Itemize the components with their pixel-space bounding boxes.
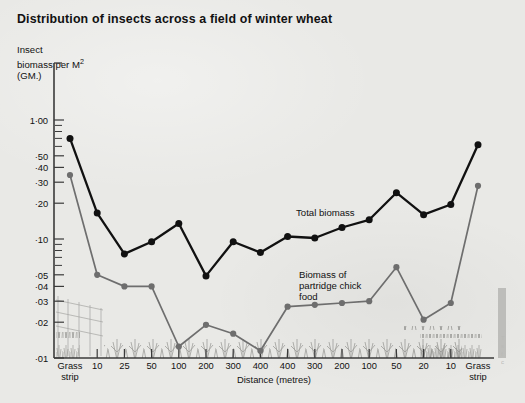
y-axis-minor-ticks	[55, 125, 62, 265]
data-point	[366, 216, 373, 223]
data-point	[230, 238, 237, 245]
chart-canvas	[0, 0, 525, 403]
data-point	[420, 211, 427, 218]
data-point	[67, 135, 74, 142]
y-tick-label: ·40	[14, 162, 48, 173]
x-axis-title: Distance (metres)	[237, 374, 311, 385]
data-point	[475, 183, 481, 189]
data-point	[67, 172, 73, 178]
axis-lines	[54, 63, 494, 358]
data-point	[393, 264, 399, 270]
data-point	[285, 304, 291, 310]
data-point	[447, 201, 454, 208]
y-tick-label: ·04	[14, 281, 48, 292]
data-point	[284, 233, 291, 240]
data-series-layer	[67, 135, 482, 354]
grass-illustration-right	[420, 288, 506, 358]
y-tick-label: ·50	[14, 150, 48, 161]
data-point	[149, 283, 155, 289]
data-point	[257, 249, 264, 256]
data-point	[94, 272, 100, 278]
data-point	[203, 272, 210, 279]
chart-figure: Distribution of insects across a field o…	[0, 0, 525, 403]
data-point	[121, 283, 127, 289]
y-axis-ticks	[54, 120, 64, 358]
grass-illustration-left	[56, 296, 103, 358]
total-biomass-label: Total biomass	[296, 208, 355, 219]
data-point	[393, 189, 400, 196]
right-margin-caption: T s f c	[501, 334, 523, 366]
y-tick-label: ·30	[14, 177, 48, 188]
series-line	[70, 175, 478, 351]
data-point	[366, 298, 372, 304]
y-tick-label: ·01	[14, 353, 48, 364]
data-point	[175, 220, 182, 227]
data-point	[448, 300, 454, 306]
data-point	[94, 210, 101, 217]
y-tick-label: ·03	[14, 296, 48, 307]
data-point	[176, 343, 182, 349]
data-point	[339, 224, 346, 231]
y-tick-label: ·10	[14, 234, 48, 245]
y-tick-label: ·20	[14, 198, 48, 209]
data-point	[148, 238, 155, 245]
data-point	[475, 141, 482, 148]
data-point	[311, 235, 318, 242]
y-tick-label: ·05	[14, 269, 48, 280]
y-tick-label: 1·00	[14, 115, 48, 126]
x-tick-label: Grass strip	[452, 361, 504, 382]
data-point	[203, 322, 209, 328]
data-point	[257, 348, 263, 354]
data-point	[421, 317, 427, 323]
data-point	[230, 331, 236, 337]
data-point	[312, 302, 318, 308]
grass-illustration-field	[104, 326, 462, 358]
partridge-food-label: Biomass of partridge chick food	[299, 270, 361, 302]
series-line	[70, 138, 478, 276]
data-point	[121, 250, 128, 257]
y-tick-label: ·02	[14, 317, 48, 328]
